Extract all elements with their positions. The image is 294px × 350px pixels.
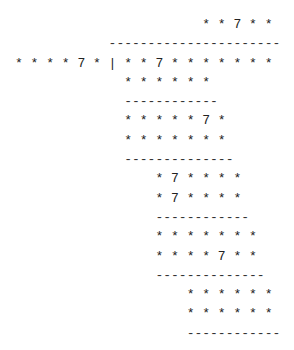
rule-5: ------------ (15, 324, 280, 343)
rule-4: -------------- (15, 266, 280, 285)
remainder-2: * 7 * * * * (15, 169, 280, 188)
remainder-4: * * * * * * (15, 285, 280, 304)
remainder-3: * * * * * * * (15, 227, 280, 246)
remainder-1: * * * * * 7 * (15, 111, 280, 130)
rule-3: ------------ (15, 208, 280, 227)
quotient-rule: ---------------------- (15, 34, 280, 53)
partial-product-4: * * * * 7 * * (15, 247, 280, 266)
partial-product-1: * * * * * * (15, 73, 280, 92)
partial-product-2: * * * * * * * (15, 131, 280, 150)
divisor-dividend-line: * * * * 7 * | * * 7 * * * * * * * (15, 54, 280, 73)
rule-1: ------------ (15, 92, 280, 111)
partial-product-3: * 7 * * * * (15, 189, 280, 208)
long-division-puzzle: * * 7 * * ----------------------* * * * … (15, 15, 280, 343)
partial-product-5: * * * * * * (15, 304, 280, 323)
rule-2: -------------- (15, 150, 280, 169)
quotient-line: * * 7 * * (15, 15, 280, 34)
